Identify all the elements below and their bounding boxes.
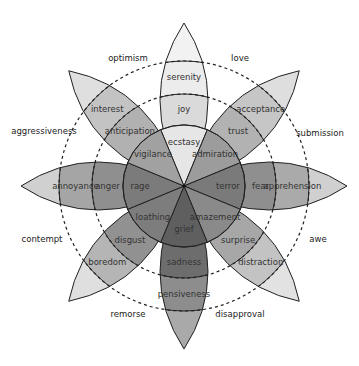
emotion-label-boredom: boredom xyxy=(88,257,126,267)
emotion-label-surprise: surprise xyxy=(221,235,255,245)
emotion-label-anger: anger xyxy=(95,181,120,191)
emotion-label-disgust: disgust xyxy=(115,235,146,245)
emotion-label-apprehension: apprehension xyxy=(264,181,322,191)
center-point xyxy=(183,185,186,188)
emotion-label-sadness: sadness xyxy=(167,257,202,267)
emotion-label-interest: interest xyxy=(91,104,124,114)
emotion-label-vigilance: vigilance xyxy=(134,149,172,159)
emotion-label-trust: trust xyxy=(228,126,249,136)
dyad-label-disapproval: disapproval xyxy=(215,309,264,319)
emotion-label-acceptance: acceptance xyxy=(236,104,285,114)
dyad-label-optimism: optimism xyxy=(108,53,148,63)
emotion-label-loathing: loathing xyxy=(136,212,171,222)
emotion-label-distraction: distraction xyxy=(238,257,283,267)
emotion-label-terror: terror xyxy=(216,181,240,191)
plutchik-wheel-of-emotions: ecstasyjoyserenityadmirationtrustaccepta… xyxy=(0,0,359,366)
dyad-label-aggressiveness: aggressiveness xyxy=(11,126,77,136)
emotion-label-grief: grief xyxy=(174,224,194,234)
dyad-label-love: love xyxy=(231,53,249,63)
dyad-label-contempt: contempt xyxy=(22,234,63,244)
emotion-label-admiration: admiration xyxy=(192,149,238,159)
emotion-label-joy: joy xyxy=(177,104,191,114)
emotion-label-rage: rage xyxy=(130,181,149,191)
emotion-label-annoyance: annoyance xyxy=(52,181,99,191)
emotion-label-anticipation: anticipation xyxy=(105,126,155,136)
emotion-label-pensiveness: pensiveness xyxy=(158,289,211,299)
emotion-label-ecstasy: ecstasy xyxy=(168,137,200,147)
dyad-label-awe: awe xyxy=(309,234,326,244)
emotion-label-serenity: serenity xyxy=(167,72,201,82)
emotion-label-amazement: amazement xyxy=(190,212,241,222)
dyad-label-remorse: remorse xyxy=(110,309,145,319)
dyad-label-submission: submission xyxy=(296,128,344,138)
